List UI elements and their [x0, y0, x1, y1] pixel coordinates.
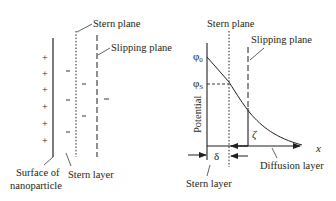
- stern-layer-leader: [207, 165, 210, 176]
- zeta-label: ζ: [252, 128, 258, 141]
- negative-charges: [66, 71, 109, 132]
- plus-sign: +: [42, 52, 48, 63]
- stern-plane-leader: [77, 24, 92, 32]
- surface-label-line1: Surface of: [16, 167, 60, 178]
- stern-layer-leader: [66, 153, 71, 166]
- surface-label-line2: nanoparticle: [10, 180, 62, 191]
- electric-double-layer-figure: + + + + + + Stern plane Slipping plane S…: [0, 0, 336, 201]
- plus-sign: +: [42, 68, 48, 79]
- phi0-label: φ0: [193, 50, 203, 64]
- plus-sign: +: [42, 118, 48, 129]
- stern-layer-label: Stern layer: [186, 178, 232, 189]
- plus-sign: +: [42, 84, 48, 95]
- diffusion-layer-leader: [272, 148, 277, 158]
- surface-leader: [44, 157, 53, 165]
- right-diagram: φ0 φS Potential x ζ δ Stern plane Slippi…: [186, 18, 324, 189]
- plus-sign: +: [42, 101, 48, 112]
- positive-charges: + + + + + +: [42, 52, 48, 146]
- slipping-plane-label: Slipping plane: [111, 42, 172, 53]
- phis-label: φS: [193, 77, 203, 91]
- stern-plane-label: Stern plane: [207, 18, 255, 29]
- stern-plane-label: Stern plane: [93, 18, 141, 29]
- delta-label: δ: [214, 150, 219, 162]
- left-diagram: + + + + + + Stern plane Slipping plane S…: [10, 18, 172, 191]
- y-axis-label: Potential: [192, 96, 203, 133]
- diffusion-layer-label: Diffusion layer: [260, 160, 324, 171]
- slipping-plane-leader: [98, 48, 110, 55]
- x-axis-label: x: [315, 142, 321, 154]
- plus-sign: +: [42, 135, 48, 146]
- slipping-plane-label: Slipping plane: [251, 34, 312, 45]
- slipping-plane-leader: [250, 48, 264, 60]
- stern-layer-label: Stern layer: [68, 169, 114, 180]
